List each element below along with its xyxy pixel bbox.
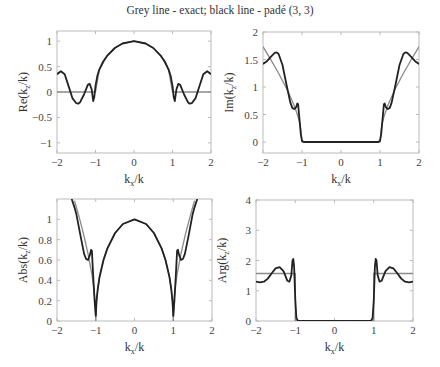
y-axis-label: Arg(kz/k) bbox=[215, 238, 231, 283]
y-tick-label: 0.4 bbox=[38, 274, 52, 286]
axes-box bbox=[57, 199, 212, 321]
axes-box bbox=[256, 200, 413, 321]
subplot-re: −2−1012−1−0.500.51kx/kRe(kz/k) bbox=[16, 31, 214, 188]
series-exact-line bbox=[256, 274, 413, 322]
x-axis-label: kx/k bbox=[124, 172, 143, 188]
x-tick-label: 0 bbox=[338, 156, 344, 168]
y-tick-label: 0.5 bbox=[244, 109, 258, 121]
y-tick-label: 4 bbox=[246, 194, 252, 206]
y-tick-label: 0.6 bbox=[38, 254, 52, 266]
x-tick-label: −2 bbox=[257, 156, 269, 168]
series-pade-line bbox=[57, 41, 211, 103]
y-tick-label: −0.5 bbox=[32, 111, 52, 123]
x-tick-label: 1 bbox=[171, 324, 177, 336]
y-tick-label: 1 bbox=[246, 285, 252, 297]
series-pade-line bbox=[263, 52, 419, 142]
x-axis-label: kx/k bbox=[331, 172, 350, 188]
x-tick-label: −1 bbox=[296, 156, 308, 168]
subplot-abs: −2−101200.20.40.60.81kx/kAbs(kz/k) bbox=[16, 199, 215, 356]
y-tick-label: 2 bbox=[253, 26, 259, 38]
series-exact-line bbox=[263, 47, 419, 142]
y-tick-label: 1.5 bbox=[244, 54, 258, 66]
y-tick-label: 0 bbox=[253, 136, 259, 148]
x-tick-label: 1 bbox=[170, 156, 176, 168]
y-tick-label: 1 bbox=[47, 35, 53, 47]
subplot-im: −2−101200.511.52kx/kIm(kz/k) bbox=[222, 26, 422, 188]
subplot-arg: −2−101201234kx/kArg(kz/k) bbox=[215, 194, 416, 356]
chart-canvas: −2−1012−1−0.500.51kx/kRe(kz/k)−2−101200.… bbox=[0, 0, 440, 367]
y-tick-label: 3 bbox=[246, 224, 252, 236]
y-tick-label: 0.8 bbox=[38, 234, 52, 246]
x-tick-label: −1 bbox=[90, 324, 102, 336]
x-axis-label: kx/k bbox=[125, 340, 144, 356]
x-tick-label: 2 bbox=[416, 156, 422, 168]
y-tick-label: 1 bbox=[47, 213, 53, 225]
x-tick-label: 2 bbox=[209, 324, 215, 336]
y-tick-label: 0 bbox=[246, 315, 252, 327]
x-tick-label: 1 bbox=[377, 156, 383, 168]
x-tick-label: −2 bbox=[51, 324, 63, 336]
x-tick-label: 1 bbox=[371, 324, 377, 336]
series-pade-line bbox=[256, 259, 413, 321]
y-tick-label: 0 bbox=[47, 86, 53, 98]
y-tick-label: 0 bbox=[47, 315, 53, 327]
series-pade-line bbox=[72, 199, 198, 316]
y-tick-label: 1 bbox=[253, 81, 259, 93]
x-tick-label: 0 bbox=[131, 156, 137, 168]
x-axis-label: kx/k bbox=[325, 340, 344, 356]
y-axis-label: Im(kz/k) bbox=[222, 72, 238, 112]
x-tick-label: −2 bbox=[250, 324, 262, 336]
y-axis-label: Re(kz/k) bbox=[16, 72, 32, 112]
x-tick-label: −1 bbox=[90, 156, 102, 168]
series-exact-line bbox=[57, 41, 211, 92]
x-tick-label: 0 bbox=[132, 324, 138, 336]
x-tick-label: −1 bbox=[289, 324, 301, 336]
y-tick-label: 2 bbox=[246, 255, 252, 267]
x-tick-label: −2 bbox=[51, 156, 63, 168]
x-tick-label: 2 bbox=[208, 156, 214, 168]
x-tick-label: 0 bbox=[332, 324, 338, 336]
y-axis-label: Abs(kz/k) bbox=[16, 237, 32, 283]
y-tick-label: 0.2 bbox=[38, 295, 52, 307]
x-tick-label: 2 bbox=[410, 324, 416, 336]
y-tick-label: −1 bbox=[40, 137, 52, 149]
y-tick-label: 0.5 bbox=[38, 61, 52, 73]
axes-box bbox=[263, 32, 419, 153]
